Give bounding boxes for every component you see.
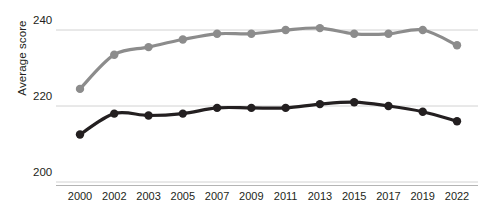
x-tick-label: 2015 [342, 190, 366, 202]
x-tick-label: 2019 [410, 190, 434, 202]
chart-container: Average score 200220240 2000200220032005… [0, 0, 494, 212]
data-point-marker[interactable] [179, 35, 187, 43]
data-point-marker[interactable] [350, 98, 358, 106]
data-point-marker[interactable] [76, 130, 84, 138]
data-point-marker[interactable] [384, 102, 392, 110]
data-point-marker[interactable] [453, 117, 461, 125]
series-group [76, 24, 461, 139]
y-tick-label: 200 [33, 166, 52, 178]
x-tick-label: 2017 [376, 190, 400, 202]
data-point-marker[interactable] [110, 51, 118, 59]
x-tick-label: 2005 [171, 190, 195, 202]
data-point-marker[interactable] [144, 111, 152, 119]
x-tick-label: 2007 [205, 190, 229, 202]
data-point-marker[interactable] [76, 85, 84, 93]
x-tick-label: 2022 [445, 190, 469, 202]
data-point-marker[interactable] [110, 109, 118, 117]
data-point-marker[interactable] [350, 30, 358, 38]
data-point-marker[interactable] [419, 26, 427, 34]
x-tick-label: 2003 [136, 190, 160, 202]
data-point-marker[interactable] [419, 108, 427, 116]
x-tick-label: 2011 [274, 190, 298, 202]
y-tick-label: 220 [33, 90, 52, 102]
data-point-marker[interactable] [179, 109, 187, 117]
y-tick-label: 240 [33, 14, 52, 26]
x-tick-label: 2009 [239, 190, 263, 202]
series-line-lower-series [80, 102, 457, 134]
data-point-marker[interactable] [316, 24, 324, 32]
data-point-marker[interactable] [213, 104, 221, 112]
data-point-marker[interactable] [247, 30, 255, 38]
data-point-marker[interactable] [144, 43, 152, 51]
data-point-marker[interactable] [384, 30, 392, 38]
series-line-upper-series [80, 28, 457, 89]
data-point-marker[interactable] [213, 30, 221, 38]
line-chart-plot [0, 0, 494, 212]
x-tick-label: 2000 [68, 190, 92, 202]
x-tick-label: 2002 [102, 190, 126, 202]
data-point-marker[interactable] [316, 100, 324, 108]
data-point-marker[interactable] [281, 104, 289, 112]
x-tick-label: 2013 [308, 190, 332, 202]
data-point-marker[interactable] [453, 41, 461, 49]
data-point-marker[interactable] [281, 26, 289, 34]
data-point-marker[interactable] [247, 104, 255, 112]
